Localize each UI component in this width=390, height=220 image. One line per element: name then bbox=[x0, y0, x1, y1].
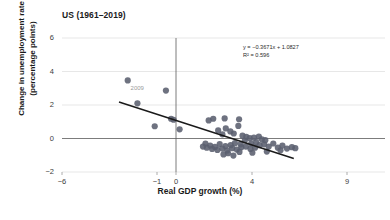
y-tick-label: 4 bbox=[40, 67, 54, 76]
data-point bbox=[220, 151, 226, 157]
data-point bbox=[210, 116, 216, 122]
data-point bbox=[200, 143, 206, 149]
trendline-r-squared: R² = 0.596 bbox=[243, 51, 299, 59]
x-tick-label: −6 bbox=[52, 177, 72, 186]
trendline-equation-box: y = −0.3671x + 1.0827 R² = 0.596 bbox=[243, 43, 299, 59]
data-point bbox=[236, 149, 242, 155]
data-point bbox=[125, 77, 131, 83]
y-tick-label: 6 bbox=[40, 33, 54, 42]
data-point bbox=[209, 146, 215, 152]
x-tick-label: 9 bbox=[337, 177, 357, 186]
data-point bbox=[134, 100, 140, 106]
trendline-equation: y = −0.3671x + 1.0827 bbox=[243, 43, 299, 51]
point-annotation-2009: 2009 bbox=[131, 85, 144, 91]
plot-area bbox=[0, 0, 390, 220]
data-point bbox=[270, 140, 276, 146]
data-point bbox=[152, 123, 158, 129]
y-tick-label: −2 bbox=[40, 167, 54, 176]
data-point bbox=[292, 145, 298, 151]
x-tick-label: −1 bbox=[147, 177, 167, 186]
data-point bbox=[235, 123, 241, 129]
data-point bbox=[231, 130, 237, 136]
scatter-chart: US (1961–2019) Change in unemployment ra… bbox=[0, 0, 390, 220]
y-tick-label: 2 bbox=[40, 100, 54, 109]
y-tick-label: 0 bbox=[40, 134, 54, 143]
data-point bbox=[163, 87, 169, 93]
data-point bbox=[222, 115, 228, 121]
x-tick-label: 0 bbox=[166, 177, 186, 186]
data-point bbox=[236, 116, 242, 122]
data-point bbox=[230, 152, 236, 158]
data-point bbox=[249, 150, 255, 156]
data-point bbox=[277, 147, 283, 153]
x-tick-label: 4 bbox=[242, 177, 262, 186]
data-point bbox=[177, 126, 183, 132]
